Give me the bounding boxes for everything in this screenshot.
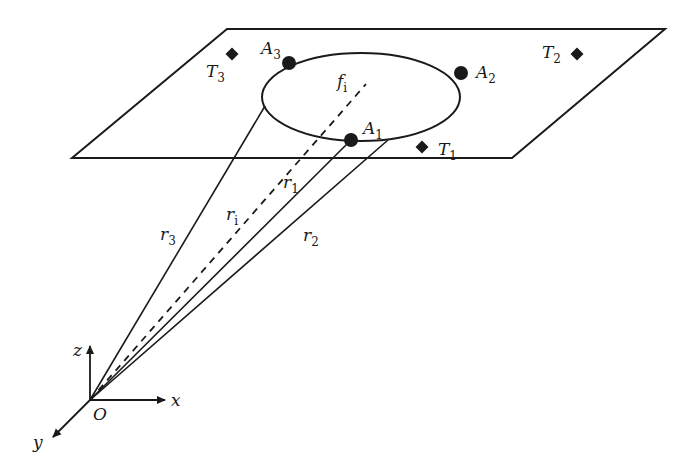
- ray-label-r1: r1: [283, 172, 299, 196]
- localization-geometry-diagram: A1A2A3T1T2T3fir1r2r3rixyzO: [0, 0, 690, 474]
- range-rays: [90, 84, 388, 400]
- ray-r1: [90, 140, 351, 400]
- anchor-dot-a1: [344, 133, 358, 147]
- y-axis-arrow-icon: [53, 400, 90, 437]
- ray-label-r3: r3: [160, 224, 176, 248]
- plane-outline: [72, 29, 665, 158]
- ray-r3: [90, 106, 265, 400]
- ray-label-r2: r2: [303, 225, 319, 249]
- anchor-dot-a3: [282, 56, 296, 70]
- anchor-label-a3: A3: [259, 38, 281, 62]
- origin-label: O: [93, 404, 107, 424]
- tag-label-t2: T2: [542, 42, 561, 66]
- labels: A1A2A3T1T2T3fir1r2r3rixyzO: [32, 38, 561, 452]
- tag-diamond-icon-t2: [571, 48, 584, 61]
- anchor-label-a2: A2: [474, 62, 496, 86]
- tag-diamond-icon-t1: [416, 141, 429, 154]
- ray-label-r1-subscript: 1: [291, 182, 299, 196]
- focus-label: fi: [335, 71, 347, 95]
- tag-diamond-icon-t3: [226, 48, 239, 61]
- tag-label-t2-subscript: 2: [553, 52, 561, 66]
- focus-label-subscript: i: [343, 81, 347, 95]
- anchor-label-a3-subscript: 3: [273, 48, 281, 62]
- ray-r2: [90, 140, 388, 400]
- coordinate-axes: [53, 346, 165, 437]
- anchor-label-a1: A1: [361, 118, 383, 142]
- anchor-label-a1-subscript: 1: [375, 128, 383, 142]
- ray-label-r2-subscript: 2: [311, 235, 319, 249]
- tag-label-t3-subscript: 3: [217, 71, 225, 85]
- x-axis-label: x: [171, 390, 181, 410]
- ray-ri: [90, 84, 366, 400]
- tag-label-t1-subscript: 1: [449, 149, 457, 163]
- reader-plane: [72, 29, 665, 158]
- anchor-dot-a2: [454, 66, 468, 80]
- ray-label-r3-subscript: 3: [168, 234, 176, 248]
- tag-label-t1: T1: [438, 139, 457, 163]
- z-axis-label: z: [72, 340, 83, 360]
- anchor-label-a2-subscript: 2: [488, 72, 496, 86]
- y-axis-label: y: [32, 432, 43, 452]
- tag-label-t3: T3: [206, 61, 225, 85]
- ray-label-ri-subscript: i: [234, 214, 238, 228]
- ray-label-ri: ri: [226, 204, 238, 228]
